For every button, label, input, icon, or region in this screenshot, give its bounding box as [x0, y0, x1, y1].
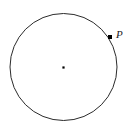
point-p-label: P — [116, 29, 123, 40]
point-p-marker — [108, 35, 112, 39]
diagram-background — [0, 0, 130, 133]
circle-center-point — [62, 66, 64, 68]
circle-diagram-canvas — [0, 0, 130, 133]
geometry-figure: P — [0, 0, 130, 133]
